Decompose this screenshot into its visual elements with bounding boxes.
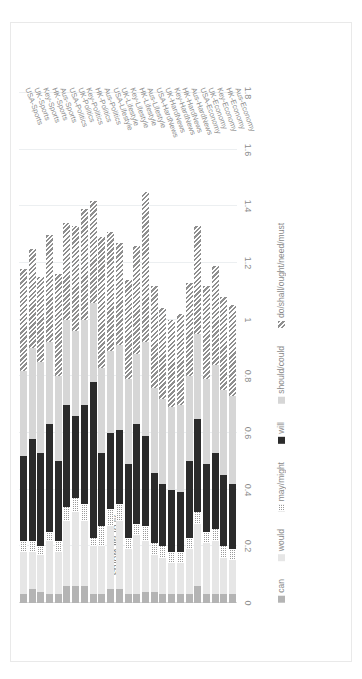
legend-label: will [276,422,286,434]
bar-segment [142,342,149,436]
bar-segment [159,484,166,546]
axis-tick-label: 0.8 [243,364,253,388]
bar-uk-hardnews [159,308,166,603]
chart-legend: canwouldmay/mightwillshould/coulddo/shal… [273,91,289,603]
bar-segment [177,594,184,603]
legend-item[interactable]: would [276,529,286,561]
axis-tick-label: 0.2 [243,534,253,558]
axis-tick-label: 1 [243,308,253,332]
bar-segment [133,524,140,535]
legend-label: may/might [276,462,286,501]
legend-label: would [276,529,286,551]
bar-segment [81,405,88,504]
bar-segment [72,512,79,586]
bar-segment [63,320,70,405]
bar-segment [186,549,193,594]
bar-segment [72,331,79,416]
bar-segment [63,586,70,603]
bar-segment [98,594,105,603]
bar-segment [29,541,36,552]
legend-item[interactable]: will [276,422,286,444]
bar-segment [37,277,44,362]
bar-segment [63,507,70,521]
bar-segment [37,546,44,555]
legend-item[interactable]: may/might [276,462,286,511]
bar-segment [125,464,132,538]
bar-aus-hardnews [186,283,193,603]
legend-label: do/shall/ought/need/must [276,223,286,318]
bar-segment [159,308,166,399]
bar-segment [133,594,140,603]
bar-segment [37,362,44,453]
legend-swatch-icon [278,554,285,561]
bar-segment [63,223,70,319]
bar-segment [186,538,193,549]
bar-segment [168,563,175,594]
bar-segment [168,408,175,490]
bar-segment [125,594,132,603]
bar-segment [72,416,79,498]
bar-segment [90,303,97,382]
bar-usa-politics [63,223,70,603]
bar-aus-sports [55,274,62,603]
bar-segment [229,594,236,603]
bar-segment [107,589,114,603]
bar-segment [229,306,236,397]
bar-segment [46,541,53,595]
bar-segment [229,560,236,594]
bar-segment [203,464,210,532]
bar-segment [98,368,105,453]
bar-segment [203,544,210,595]
bar-segment [133,535,140,595]
bar-segment [90,538,97,547]
bar-segment [46,424,53,532]
bar-segment [203,286,210,380]
plot-area: 00.20.40.60.811.21.41.61.8Aus-EconomyHK-… [19,93,237,603]
bar-segment [98,526,105,546]
bar-segment [194,334,201,419]
bar-segment [72,226,79,331]
bar-segment [125,280,132,379]
bar-segment [133,354,140,425]
bar-segment [168,490,175,552]
bar-segment [186,376,193,461]
bar-segment [55,552,62,595]
bar-segment [81,209,88,320]
legend-swatch-icon [278,397,285,404]
bar-uk-economy [203,286,210,603]
bar-usa-lifestyle [107,232,114,603]
bar-segment [29,589,36,603]
legend-item[interactable]: do/shall/ought/need/must [276,223,286,328]
legend-item[interactable]: should/could [276,346,286,404]
bar-segment [220,594,227,603]
bar-segment [151,286,158,388]
bar-segment [107,527,114,589]
bar-segment [220,476,227,547]
bar-segment [55,461,62,540]
bar-segment [116,243,123,345]
bar-segment [29,439,36,541]
legend-swatch-icon [278,437,285,444]
bar-segment [46,532,53,541]
bar-segment [107,433,114,510]
legend-label: should/could [276,346,286,394]
bar-segment [20,552,27,595]
bar-segment [107,510,114,527]
bar-segment [229,396,236,484]
bar-segment [29,249,36,348]
bar-aus-economy [229,306,236,604]
bar-segment [151,473,158,544]
bar-segment [20,541,27,552]
bar-key-lifestyle [125,280,132,603]
bar-segment [98,546,105,594]
bar-segment [203,379,210,464]
bar-key-sports [37,277,44,603]
bar-segment [212,541,219,595]
bar-segment [203,532,210,543]
bar-segment [159,594,166,603]
bar-hk-economy [220,297,227,603]
chart-frame: % of all words 00.20.40.60.811.21.41.61.… [10,22,352,662]
gridline [19,149,237,150]
bar-segment [55,274,62,376]
legend-item[interactable]: can [276,579,286,603]
